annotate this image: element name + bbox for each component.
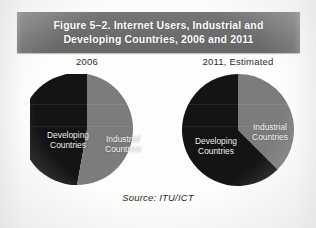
pie-chart-2006: 2006 Developing Countries Industrial xyxy=(22,56,152,196)
pie-2011-label-industrial: Industrial Countries xyxy=(239,122,301,142)
pie-2011-label-industrial-line-1: Industrial xyxy=(253,122,287,132)
pie-2011-label-developing-line-1: Developing xyxy=(195,136,237,146)
pie-chart-2011-graphic: Developing Countries Industrial Countrie… xyxy=(181,74,295,186)
figure-source: Source: ITU/ICT xyxy=(0,192,316,203)
figure-title-line-2: Developing Countries, 2006 and 2011 xyxy=(63,33,253,47)
pie-2006-label-developing: Developing Countries xyxy=(36,130,100,150)
pie-chart-2006-graphic: Developing Countries Industrial Countrie… xyxy=(30,74,144,186)
pie-2006-label-developing-line-1: Developing xyxy=(47,130,89,140)
charts-row: 2006 Developing Countries Industrial xyxy=(0,56,316,196)
pie-2006-label-industrial: Industrial Countries xyxy=(92,134,154,154)
pie-chart-2011: 2011, Estimated Developing Countries Ind… xyxy=(173,56,303,196)
pie-chart-2006-label: 2006 xyxy=(22,56,152,67)
pie-2006-label-industrial-line-1: Industrial xyxy=(106,134,140,144)
pie-chart-2011-label: 2011, Estimated xyxy=(173,56,303,67)
pie-2011-label-developing-line-2: Countries xyxy=(198,146,234,156)
pie-2011-label-industrial-line-2: Countries xyxy=(252,132,288,142)
figure-title-line-1: Figure 5–2. Internet Users, Industrial a… xyxy=(54,19,264,33)
scan-artifact xyxy=(181,104,295,105)
figure-title-banner: Figure 5–2. Internet Users, Industrial a… xyxy=(17,12,300,53)
pie-2006-label-developing-line-2: Countries xyxy=(50,140,86,150)
figure-page: Figure 5–2. Internet Users, Industrial a… xyxy=(0,0,316,228)
scan-artifact xyxy=(30,126,144,127)
scan-artifact xyxy=(30,104,144,105)
pie-2006-label-industrial-line-2: Countries xyxy=(105,144,141,154)
